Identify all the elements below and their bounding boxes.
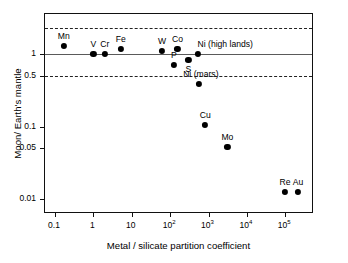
y-axis-tick-label: 1	[0, 49, 36, 58]
x-axis-title: Metal / silicate partition coefficient	[44, 240, 313, 251]
y-axis-tick-label: 0.1	[0, 121, 36, 130]
y-axis-tick	[40, 76, 45, 77]
unity-line	[45, 54, 312, 55]
y-axis-tick-label: 0.05	[0, 143, 36, 152]
data-point-label: Cu	[200, 111, 211, 120]
x-axis-tick-label: 1	[90, 221, 95, 230]
scatter-chart-figure: MnVCrFeWCoNi (high lands)PSNi (mars)CuMo…	[0, 0, 348, 263]
x-axis-tick-label: 102	[163, 221, 176, 230]
data-point	[102, 51, 108, 57]
lower-bound-line	[45, 76, 312, 77]
x-axis-tick-label: 0.1	[48, 221, 60, 230]
data-point-label: Co	[172, 35, 183, 44]
x-axis-tick	[285, 212, 286, 217]
data-point	[282, 189, 288, 195]
upper-bound-line	[45, 28, 312, 29]
y-axis-tick	[40, 54, 45, 55]
data-point-label: W	[158, 37, 166, 46]
y-axis-title: Moon/ Earth's mantle	[12, 49, 23, 179]
data-point	[202, 122, 208, 128]
x-axis-tick	[247, 212, 248, 217]
plot-area: MnVCrFeWCoNi (high lands)PSNi (mars)CuMo…	[44, 13, 313, 213]
data-point-label: Cr	[100, 40, 109, 49]
y-axis-tick	[40, 199, 45, 200]
data-point-label: Mn	[58, 32, 70, 41]
data-point-label: Ni (high lands)	[198, 40, 253, 49]
data-point-label: Fe	[116, 35, 126, 44]
data-point-label: Re	[279, 178, 290, 187]
data-point	[196, 81, 202, 87]
x-axis-tick-label: 104	[239, 221, 252, 230]
data-point	[61, 42, 67, 48]
y-axis-tick-label: 0.5	[0, 71, 36, 80]
data-point-label: V	[90, 40, 96, 49]
x-axis-tick	[55, 212, 56, 217]
data-point	[90, 51, 96, 57]
y-axis-tick-label: 0.01	[0, 194, 36, 203]
data-point-label: P	[171, 51, 177, 60]
data-point	[185, 57, 191, 63]
data-point	[118, 45, 124, 51]
x-axis-tick	[93, 212, 94, 217]
data-point-label: Au	[293, 178, 304, 187]
data-point	[159, 48, 165, 54]
data-point	[195, 51, 201, 57]
x-axis-tick-label: 103	[201, 221, 214, 230]
x-axis-tick-label: 10	[126, 221, 135, 230]
x-axis-tick	[170, 212, 171, 217]
x-axis-tick-label: 105	[278, 221, 291, 230]
data-point	[171, 61, 177, 67]
x-axis-tick	[209, 212, 210, 217]
y-axis-tick	[40, 148, 45, 149]
data-point-label: Mo	[221, 133, 233, 142]
x-axis-tick	[132, 212, 133, 217]
data-point	[295, 189, 301, 195]
data-point	[224, 144, 230, 150]
data-point-label: Ni (mars)	[183, 70, 218, 79]
y-axis-tick	[40, 127, 45, 128]
